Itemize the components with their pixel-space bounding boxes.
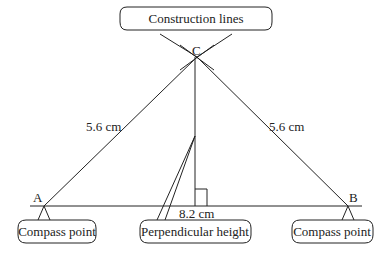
- side-ab-length: 8.2 cm: [179, 206, 214, 221]
- construction-callout-text: Construction lines: [149, 11, 244, 26]
- right-angle-marker: [195, 189, 207, 206]
- triangle-diagram: C A B 5.6 cm 5.6 cm 8.2 cm Construction …: [0, 0, 386, 261]
- compass-b-pointer: [342, 206, 354, 220]
- point-a-label: A: [33, 190, 43, 205]
- side-ac-length: 5.6 cm: [86, 119, 121, 134]
- side-bc-length: 5.6 cm: [269, 119, 304, 134]
- perpendicular-text: Perpendicular height: [141, 224, 249, 239]
- point-b-label: B: [349, 190, 358, 205]
- compass-b-text: Compass point: [293, 224, 371, 239]
- compass-a-text: Compass point: [18, 224, 96, 239]
- compass-a-pointer: [38, 206, 50, 220]
- point-c-label: C: [192, 43, 201, 58]
